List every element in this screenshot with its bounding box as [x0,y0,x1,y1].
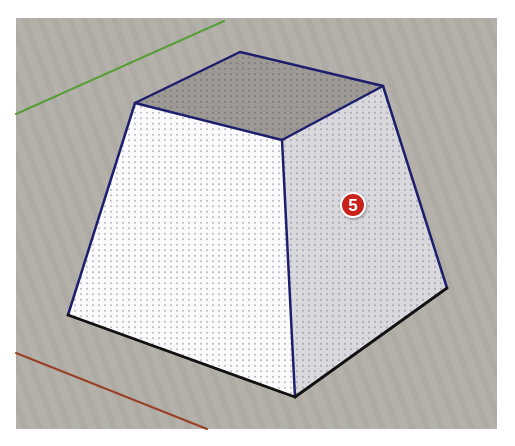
callout-badge: 5 [341,193,365,217]
scene-canvas[interactable]: 5 [0,0,515,446]
3d-viewport[interactable]: 5 [0,0,515,446]
callout-number: 5 [348,196,357,215]
